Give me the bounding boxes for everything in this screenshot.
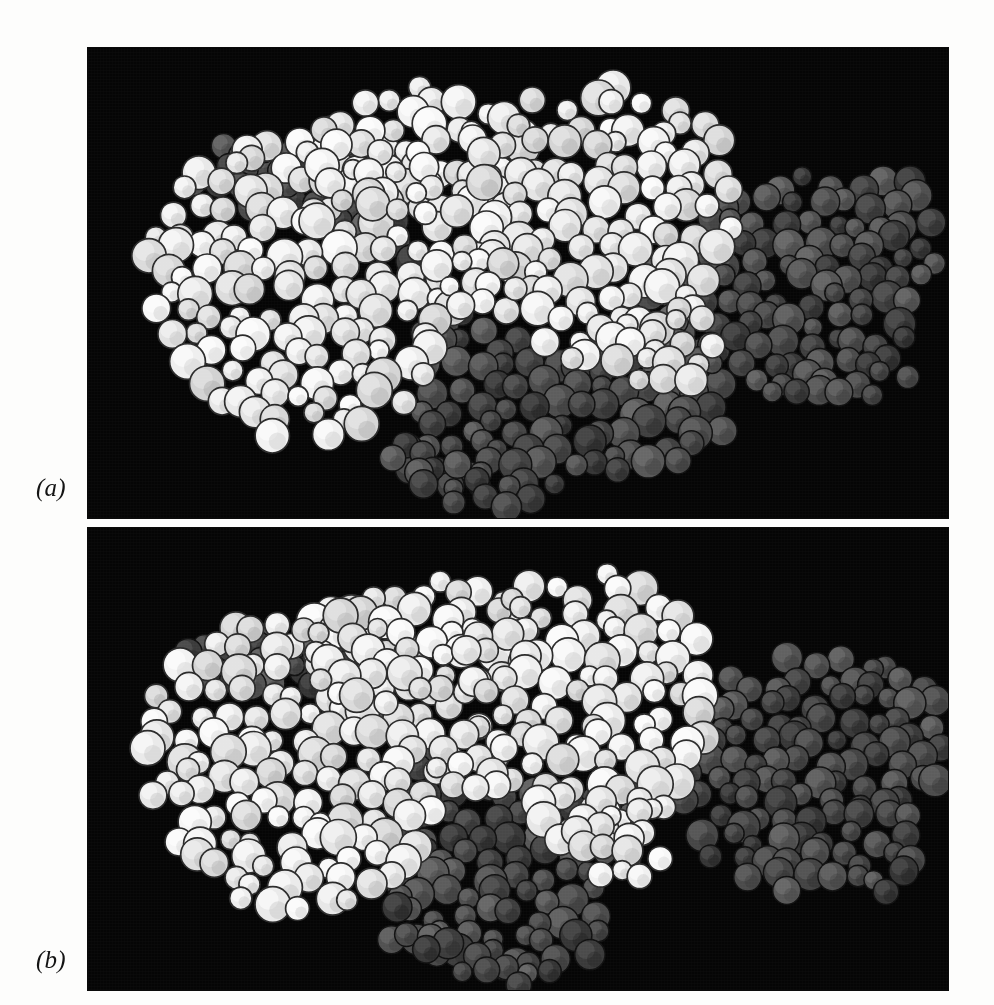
figure-panel-b <box>88 528 948 990</box>
molecular-model-a <box>88 48 948 518</box>
panel-label-b: (b) <box>36 946 66 974</box>
panel-label-a: (a) <box>36 474 66 502</box>
molecular-model-b <box>88 528 948 990</box>
figure-root: (a) (b) <box>0 0 994 1005</box>
figure-panel-a <box>88 48 948 518</box>
